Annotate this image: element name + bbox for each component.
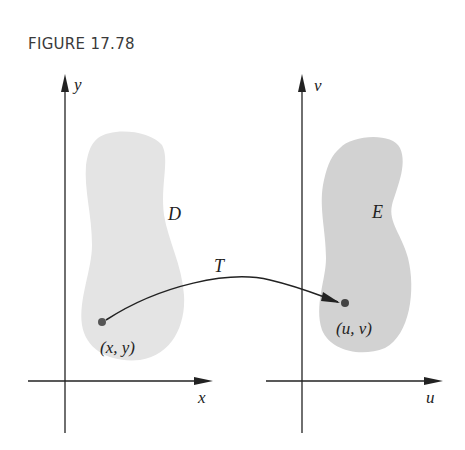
- transformation-label: T: [214, 256, 226, 276]
- region-d: [81, 131, 184, 360]
- point-xy: [98, 318, 106, 326]
- left-x-axis-label: x: [197, 388, 206, 407]
- right-u-axis-arrow-icon: [424, 377, 443, 385]
- point-uv: [341, 299, 349, 307]
- region-d-label: D: [167, 204, 181, 224]
- left-y-axis-arrow-icon: [61, 74, 69, 92]
- region-e-label: E: [371, 202, 383, 222]
- transformation-diagram: y x v u D E T (x, y) (u, v): [0, 0, 465, 450]
- right-v-axis-arrow-icon: [298, 74, 306, 92]
- right-u-axis-label: u: [426, 388, 435, 407]
- point-uv-label: (u, v): [336, 319, 372, 338]
- point-xy-label: (x, y): [100, 338, 135, 357]
- left-x-axis-arrow-icon: [194, 377, 213, 385]
- right-v-axis-label: v: [314, 76, 322, 95]
- left-y-axis-label: y: [72, 75, 82, 94]
